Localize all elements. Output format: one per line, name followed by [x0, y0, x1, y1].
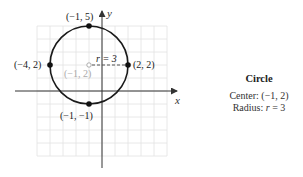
center-value: (−1, 2)	[261, 90, 288, 101]
point-left-label: (−4, 2)	[14, 59, 41, 71]
caption-title: Circle	[218, 73, 300, 84]
radius-prefix: Radius:	[233, 102, 266, 113]
center-label: (−1, 2)	[64, 68, 91, 80]
point-left	[47, 62, 53, 68]
center-prefix: Center:	[229, 90, 261, 101]
radius-value: = 3	[270, 102, 286, 113]
caption-center: Center: (−1, 2)	[218, 90, 300, 102]
point-top	[86, 23, 92, 29]
caption: Circle Center: (−1, 2) Radius: r = 3	[218, 73, 300, 114]
point-right	[125, 62, 131, 68]
center-point	[87, 63, 91, 67]
point-right-label: (2, 2)	[133, 59, 155, 71]
radius-label: r = 3	[96, 53, 117, 64]
circle-graph: x y (−1, 2) r = 3 (−1, 5) (−4, 2) (2, 2)…	[0, 0, 200, 177]
y-axis-label: y	[106, 7, 112, 19]
point-top-label: (−1, 5)	[66, 11, 93, 23]
point-bottom-label: (−1, −1)	[60, 110, 93, 122]
caption-radius: Radius: r = 3	[218, 102, 300, 114]
x-axis-label: x	[174, 94, 180, 106]
point-bottom	[86, 101, 92, 107]
